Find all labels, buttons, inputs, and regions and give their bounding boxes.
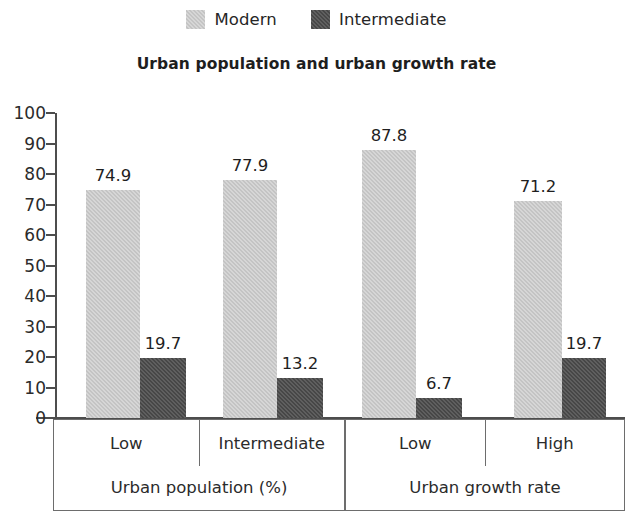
category-cell-intermediate-population: Intermediate bbox=[199, 420, 345, 466]
bar-value-label: 19.7 bbox=[550, 334, 618, 353]
chart-title: Urban population and urban growth rate bbox=[0, 55, 633, 73]
bar-value-label: 19.7 bbox=[128, 334, 198, 353]
y-axis-tick bbox=[46, 143, 55, 145]
group-label-urban-population: Urban population (%) bbox=[111, 478, 288, 497]
y-axis-tick-label: 50 bbox=[2, 256, 46, 276]
y-axis-tick bbox=[46, 173, 55, 175]
y-axis-tick-label: 10 bbox=[2, 378, 46, 398]
bar-value-label: 87.8 bbox=[350, 126, 428, 145]
y-axis-tick-label: 40 bbox=[2, 286, 46, 306]
legend-swatch-intermediate-icon bbox=[311, 10, 330, 29]
y-axis-tick-label: 90 bbox=[2, 134, 46, 154]
category-cell-low-growth: Low bbox=[346, 420, 485, 466]
bar-modern-1 bbox=[223, 180, 277, 418]
legend-swatch-modern-icon bbox=[186, 10, 205, 29]
y-axis-tick-label: 80 bbox=[2, 164, 46, 184]
bar-value-label: 6.7 bbox=[404, 374, 474, 393]
plot-area: 74.919.777.913.287.86.771.219.7 bbox=[55, 113, 625, 418]
bar-intermediate-0 bbox=[140, 358, 186, 418]
group-row-right: Urban growth rate bbox=[346, 464, 624, 510]
bar-modern-0 bbox=[86, 190, 140, 418]
y-axis-tick-label: 60 bbox=[2, 225, 46, 245]
y-axis-tick bbox=[46, 295, 55, 297]
chart-legend: Modern Intermediate bbox=[0, 4, 633, 34]
category-row-left: Low Intermediate bbox=[54, 420, 344, 466]
bar-modern-3 bbox=[514, 201, 562, 418]
y-axis-tick bbox=[46, 234, 55, 236]
bar-value-label: 71.2 bbox=[502, 177, 574, 196]
y-axis-tick bbox=[46, 204, 55, 206]
legend-label-modern: Modern bbox=[214, 10, 277, 29]
bar-intermediate-1 bbox=[277, 378, 323, 418]
y-axis-tick-label: 0 bbox=[2, 408, 46, 428]
legend-entry-modern: Modern bbox=[186, 10, 277, 29]
y-axis-tick bbox=[46, 112, 55, 114]
category-group-urban-growth-rate: Low High Urban growth rate bbox=[345, 419, 625, 511]
y-axis-tick bbox=[46, 356, 55, 358]
category-cell-low-population: Low bbox=[54, 420, 199, 466]
bar-intermediate-3 bbox=[562, 358, 606, 418]
bar-value-label: 74.9 bbox=[74, 166, 152, 185]
y-axis-tick bbox=[46, 326, 55, 328]
group-label-urban-growth-rate: Urban growth rate bbox=[409, 478, 560, 497]
category-row-right: Low High bbox=[346, 420, 624, 466]
bar-intermediate-2 bbox=[416, 398, 462, 418]
legend-label-intermediate: Intermediate bbox=[339, 10, 447, 29]
y-axis-tick-labels: 0102030405060708090100 bbox=[0, 0, 46, 513]
y-axis-tick bbox=[46, 387, 55, 389]
y-axis-tick-label: 30 bbox=[2, 317, 46, 337]
y-axis-tick bbox=[46, 417, 55, 419]
y-axis-tick bbox=[46, 265, 55, 267]
bar-value-label: 77.9 bbox=[211, 156, 289, 175]
category-group-urban-population: Low Intermediate Urban population (%) bbox=[53, 419, 345, 511]
legend-entry-intermediate: Intermediate bbox=[311, 10, 447, 29]
y-axis-tick-label: 20 bbox=[2, 347, 46, 367]
category-cell-high-growth: High bbox=[485, 420, 625, 466]
bar-value-label: 13.2 bbox=[265, 354, 335, 373]
y-axis-tick-label: 70 bbox=[2, 195, 46, 215]
group-row-left: Urban population (%) bbox=[54, 464, 344, 510]
y-axis-tick-label: 100 bbox=[2, 103, 46, 123]
